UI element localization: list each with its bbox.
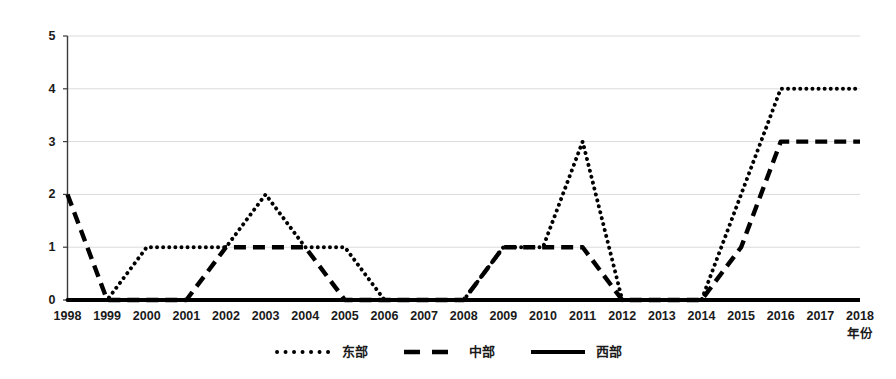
y-tick-label: 1 <box>30 241 56 253</box>
legend-label: 东部 <box>342 345 368 359</box>
x-tick-label: 2018 <box>836 310 884 323</box>
gridlines <box>68 36 861 247</box>
legend-item-1[interactable]: 中部 <box>402 345 495 359</box>
legend-swatch-solid <box>529 346 587 358</box>
y-tick-label: 0 <box>30 294 56 306</box>
y-tick-label: 2 <box>30 188 56 200</box>
y-tick-label: 3 <box>30 136 56 148</box>
y-tick-label: 4 <box>30 83 56 95</box>
legend-swatch-dashed <box>402 346 460 358</box>
legend-swatch-dotted <box>275 346 333 358</box>
legend-item-2[interactable]: 西部 <box>529 345 622 359</box>
legend-item-0[interactable]: 东部 <box>275 345 368 359</box>
series-line-1 <box>68 142 861 300</box>
legend-label: 西部 <box>596 345 622 359</box>
y-tick-label: 5 <box>30 30 56 42</box>
legend-label: 中部 <box>469 345 495 359</box>
chart-legend: 东部中部西部 <box>0 345 896 359</box>
x-axis-title: 年份 <box>836 328 884 341</box>
line-chart: 012345 199819992000200120022003200420052… <box>0 0 896 379</box>
axis-lines <box>63 36 860 300</box>
